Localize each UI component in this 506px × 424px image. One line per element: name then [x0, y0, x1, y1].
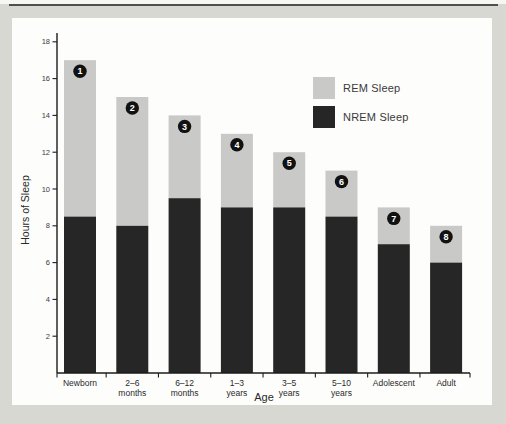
legend-entry-nrem: NREM Sleep: [313, 106, 409, 128]
category-label: 6–12months: [171, 378, 199, 399]
y-tick-label: 18: [42, 37, 50, 46]
badge-number: 2: [130, 103, 135, 113]
y-tick-label: 16: [42, 74, 50, 83]
sleep-stacked-bar-chart: 24681012141618Newborn2–6months6–12months…: [0, 0, 506, 424]
category-label: Newborn: [63, 378, 97, 388]
y-tick-label: 6: [46, 258, 50, 267]
legend-label-nrem: NREM Sleep: [343, 111, 409, 123]
category-label: 1–3years: [227, 378, 248, 399]
category-label: 5–10years: [331, 378, 352, 399]
legend: REM Sleep NREM Sleep: [313, 77, 409, 128]
category-label: 2–6months: [118, 378, 146, 399]
y-tick-label: 4: [46, 295, 50, 304]
bar-nrem-segment: [64, 217, 96, 373]
badge-number: 8: [444, 232, 449, 242]
badge-number: 3: [182, 122, 187, 132]
nrem-color-swatch: [313, 106, 335, 128]
rem-color-swatch: [313, 77, 335, 99]
bar-nrem-segment: [273, 207, 305, 373]
y-tick-label: 12: [42, 148, 50, 157]
badge-number: 1: [77, 66, 82, 76]
legend-entry-rem: REM Sleep: [313, 77, 409, 99]
category-label: Adult: [436, 378, 456, 388]
bar-rem-segment: [64, 60, 96, 216]
badge-number: 4: [234, 140, 239, 150]
bar-nrem-segment: [221, 207, 253, 373]
legend-label-rem: REM Sleep: [343, 82, 400, 94]
figure-page: 24681012141618Newborn2–6months6–12months…: [0, 0, 506, 424]
bar-rem-segment: [116, 97, 148, 226]
y-tick-label: 8: [46, 221, 50, 230]
badge-number: 6: [339, 177, 344, 187]
bar-nrem-segment: [430, 263, 462, 373]
y-tick-label: 14: [42, 111, 50, 120]
category-label: Adolescent: [373, 378, 416, 388]
y-tick-label: 2: [46, 332, 50, 341]
y-tick-label: 10: [42, 185, 50, 194]
badge-number: 7: [391, 214, 396, 224]
category-label: 3–5years: [279, 378, 300, 399]
bar-nrem-segment: [378, 244, 410, 373]
y-axis-title: Hours of Sleep: [19, 175, 31, 245]
badge-number: 5: [287, 158, 292, 168]
bar-nrem-segment: [169, 198, 201, 373]
bar-nrem-segment: [116, 226, 148, 373]
bar-nrem-segment: [326, 217, 358, 373]
x-axis-title: Age: [254, 391, 274, 403]
